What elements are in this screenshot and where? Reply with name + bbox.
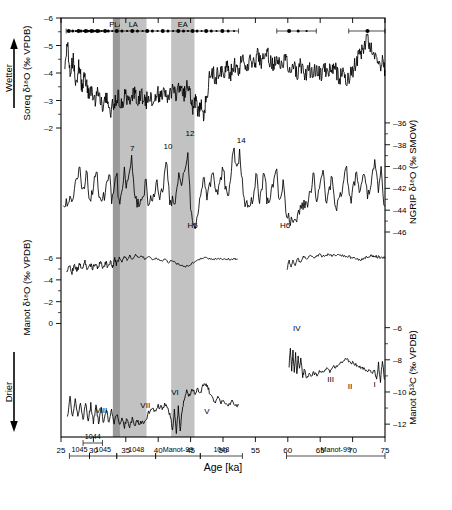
dating-point bbox=[297, 30, 300, 33]
dating-point bbox=[220, 29, 224, 33]
annotation-ngrip: 10 bbox=[163, 142, 172, 151]
dating-point bbox=[126, 30, 128, 32]
ytick-label-soreq: –5 bbox=[44, 42, 53, 51]
dating-point bbox=[107, 30, 110, 33]
xtick-label: 25 bbox=[57, 446, 66, 455]
annotation-manot_c13: II bbox=[348, 382, 352, 391]
ytick-label-manot_c13: –12 bbox=[393, 420, 407, 429]
dating-point bbox=[71, 30, 74, 33]
dating-point bbox=[172, 30, 174, 32]
dating-point bbox=[136, 30, 139, 33]
ytick-label-soreq: –3 bbox=[44, 97, 53, 106]
ytick-label-manot_o18: –2 bbox=[44, 298, 53, 307]
dating-point bbox=[142, 30, 144, 32]
series-manot-d13c-segment-1 bbox=[67, 384, 238, 434]
dating-point bbox=[182, 30, 185, 33]
yaxis-title-manot_c13: Manot δ¹³C (‰ VPDB) bbox=[407, 330, 418, 425]
wetter-label: Wetter bbox=[3, 64, 14, 92]
dating-point bbox=[166, 30, 169, 33]
band-label-ea: EA bbox=[178, 20, 188, 29]
series-ngrip-d18o bbox=[64, 148, 385, 229]
dating-point bbox=[227, 30, 230, 33]
xaxis-title: Age [ka] bbox=[204, 461, 243, 473]
sample-bar-lower-label: 1045 bbox=[95, 445, 111, 454]
ytick-label-ngrip: –42 bbox=[393, 184, 407, 193]
dating-point bbox=[145, 29, 149, 33]
ytick-label-ngrip: –36 bbox=[393, 119, 407, 128]
annotation-manot_c13: VII bbox=[140, 401, 150, 410]
dating-point bbox=[201, 30, 203, 32]
shaded-band-la bbox=[120, 18, 147, 437]
dating-point bbox=[233, 30, 235, 32]
ytick-label-manot_c13: –10 bbox=[393, 388, 407, 397]
sample-bar-upper-label: 1044 bbox=[85, 432, 101, 441]
shaded-band-pla bbox=[113, 18, 120, 437]
ytick-label-manot_o18: –6 bbox=[44, 254, 53, 263]
ytick-label-manot_c13: –8 bbox=[393, 356, 402, 365]
band-label-la: LA bbox=[129, 20, 138, 29]
dating-point bbox=[67, 29, 71, 33]
annotation-ngrip: 7 bbox=[130, 144, 135, 153]
drier-label: Drier bbox=[3, 382, 14, 403]
dating-point bbox=[287, 29, 291, 33]
dating-point bbox=[215, 30, 217, 32]
dating-point bbox=[115, 29, 119, 33]
sample-bar-lower-label: Manot-99 bbox=[163, 445, 193, 454]
annotation-ngrip: 12 bbox=[185, 129, 194, 138]
series-manot-d18o-segment-2 bbox=[287, 254, 385, 270]
figure-container: PLALAEA2530354045505560657075Age [ka]–6–… bbox=[0, 0, 452, 510]
wetter-arrow-head bbox=[10, 38, 18, 49]
dating-point bbox=[196, 30, 199, 33]
annotation-manot_c13: VI bbox=[171, 388, 179, 397]
sample-bar-lower-label: 1045 bbox=[71, 445, 87, 454]
sample-bar-lower-label: 1048 bbox=[213, 445, 229, 454]
sample-bar-lower-label: Manot-99 bbox=[321, 445, 351, 454]
yaxis-title-manot_o18: Manot δ¹⁸O (‰ VPDB) bbox=[21, 240, 32, 336]
dating-point bbox=[80, 30, 83, 33]
dating-point bbox=[111, 30, 113, 32]
ytick-label-manot_c13: –6 bbox=[393, 324, 402, 333]
yaxis-title-ngrip: NGRIP δ¹⁸O (‰ SMOW) bbox=[407, 120, 418, 224]
dating-point bbox=[101, 30, 103, 32]
dating-point bbox=[130, 29, 134, 33]
dating-point bbox=[210, 30, 213, 33]
ytick-label-ngrip: –46 bbox=[393, 228, 407, 237]
paleoclimate-multipanel-figure: PLALAEA2530354045505560657075Age [ka]–6–… bbox=[0, 0, 452, 510]
annotation-ngrip: H6 bbox=[280, 221, 291, 230]
annotation-manot_c13: IV bbox=[293, 324, 301, 333]
dating-point bbox=[98, 30, 101, 33]
drier-arrow-head bbox=[10, 421, 18, 432]
annotation-manot_c13: VIII bbox=[95, 406, 107, 415]
sample-bar-lower-label: 1048 bbox=[128, 445, 144, 454]
dating-point bbox=[204, 29, 208, 33]
ytick-label-soreq: –2 bbox=[44, 124, 53, 133]
xtick-label: 40 bbox=[154, 446, 163, 455]
dating-point bbox=[103, 29, 107, 33]
xtick-label: 60 bbox=[283, 446, 292, 455]
series-manot-d13c-segment-2 bbox=[289, 348, 384, 382]
dating-point bbox=[151, 30, 154, 33]
annotation-manot_c13: I bbox=[374, 380, 376, 389]
annotation-ngrip: H5 bbox=[187, 221, 198, 230]
annotation-ngrip: 14 bbox=[237, 136, 246, 145]
dating-point bbox=[305, 30, 307, 32]
ytick-label-soreq: –6 bbox=[44, 14, 53, 23]
ytick-label-soreq: –4 bbox=[44, 69, 53, 78]
ytick-label-ngrip: –40 bbox=[393, 163, 407, 172]
plot-frame bbox=[61, 18, 385, 437]
dating-point bbox=[366, 29, 370, 33]
ytick-label-ngrip: –44 bbox=[393, 206, 407, 215]
ytick-label-manot_o18: 0 bbox=[49, 319, 54, 328]
xtick-label: 55 bbox=[251, 446, 260, 455]
annotation-manot_c13: V bbox=[204, 407, 210, 416]
dating-point bbox=[120, 30, 123, 33]
dating-point bbox=[191, 29, 195, 33]
annotation-manot_c13: III bbox=[327, 375, 334, 384]
ytick-label-manot_o18: –4 bbox=[44, 276, 53, 285]
dating-point bbox=[176, 29, 180, 33]
dating-point bbox=[187, 30, 189, 32]
yaxis-title-soreq: Soreq δ¹⁸O (‰ VPDB) bbox=[21, 26, 32, 121]
series-manot-d18o-segment-1 bbox=[67, 254, 237, 274]
dating-point bbox=[161, 29, 165, 33]
dating-point bbox=[156, 30, 158, 32]
